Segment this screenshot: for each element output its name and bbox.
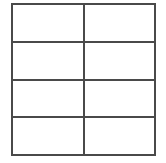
grid-cell-r3c1[interactable] bbox=[12, 80, 84, 118]
table-row bbox=[12, 80, 155, 118]
grid-cell-r4c1[interactable] bbox=[12, 117, 84, 155]
grid-cell-r2c2[interactable] bbox=[84, 42, 156, 80]
grid-table bbox=[11, 3, 156, 156]
grid-cell-r1c2[interactable] bbox=[84, 4, 156, 42]
grid-cell-r4c2[interactable] bbox=[84, 117, 156, 155]
figure-canvas bbox=[0, 0, 166, 163]
table-row bbox=[12, 117, 155, 155]
table-row bbox=[12, 42, 155, 80]
grid-cell-r2c1[interactable] bbox=[12, 42, 84, 80]
grid-cell-r1c1[interactable] bbox=[12, 4, 84, 42]
grid-cell-r3c2[interactable] bbox=[84, 80, 156, 118]
table-row bbox=[12, 4, 155, 42]
grid-table-body bbox=[12, 4, 155, 155]
